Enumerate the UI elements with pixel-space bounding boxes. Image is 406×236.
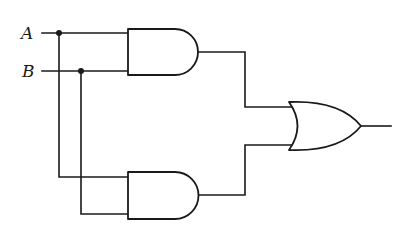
junction-b <box>78 68 84 74</box>
wire-and2-to-or <box>199 145 294 195</box>
input-label-a: A <box>19 23 33 43</box>
logic-circuit-diagram: A B <box>0 0 406 236</box>
wire-input-b <box>42 71 128 214</box>
or-gate <box>289 102 361 150</box>
and-gate-2 <box>128 172 198 219</box>
wire-input-a <box>42 33 128 177</box>
junction-a <box>56 30 62 36</box>
wire-and1-to-or <box>198 52 294 107</box>
and-gate-1 <box>128 29 198 75</box>
input-label-b: B <box>21 61 35 81</box>
